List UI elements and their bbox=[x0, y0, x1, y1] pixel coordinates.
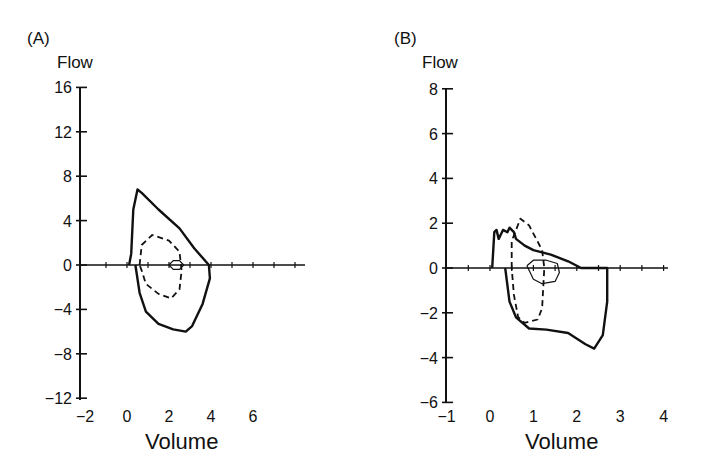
y-tick-label: 8 bbox=[429, 81, 438, 98]
y-tick-label: −4 bbox=[420, 350, 438, 367]
y-tick-label: 2 bbox=[429, 215, 438, 232]
x-tick-label: 4 bbox=[659, 408, 668, 425]
panel-a-label: (A) bbox=[27, 29, 50, 48]
x-tick-label: 6 bbox=[249, 408, 258, 425]
panel-b-x-axis-label: Volume bbox=[525, 429, 598, 454]
panel-a-series bbox=[129, 190, 210, 332]
x-tick-label: 1 bbox=[529, 408, 538, 425]
y-tick-label: −12 bbox=[45, 390, 72, 407]
x-tick-label: 2 bbox=[572, 408, 581, 425]
x-tick-label: 0 bbox=[486, 408, 495, 425]
x-tick-label: 0 bbox=[123, 408, 132, 425]
y-tick-label: 16 bbox=[54, 79, 72, 96]
y-tick-label: −6 bbox=[420, 394, 438, 411]
panel-b-chart: (B) Flow Volume 86420−2−4−6−101234 bbox=[394, 29, 668, 454]
y-tick-label: −4 bbox=[54, 301, 72, 318]
panel-a-chart: (A) Flow Volume 1612840−4−8−12−20246 bbox=[27, 29, 305, 454]
dashed-loop-curve bbox=[512, 219, 545, 323]
y-tick-label: −8 bbox=[54, 346, 72, 363]
panel-a-x-axis-label: Volume bbox=[145, 429, 218, 454]
panel-a-axes: 1612840−4−8−12−20246 bbox=[45, 79, 305, 425]
outer-loop-curve bbox=[129, 190, 210, 332]
x-tick-label: −1 bbox=[437, 408, 455, 425]
panel-b-y-axis-label: Flow bbox=[422, 53, 459, 72]
y-tick-label: 4 bbox=[429, 170, 438, 187]
y-tick-label: 12 bbox=[54, 124, 72, 141]
y-tick-label: 4 bbox=[63, 213, 72, 230]
y-tick-label: 8 bbox=[63, 168, 72, 185]
dashed-loop-curve bbox=[140, 235, 182, 298]
flow-volume-figure: (A) Flow Volume 1612840−4−8−12−20246 (B)… bbox=[0, 0, 707, 464]
y-tick-label: 6 bbox=[429, 126, 438, 143]
x-tick-label: 3 bbox=[616, 408, 625, 425]
x-tick-label: −2 bbox=[76, 408, 94, 425]
panel-b-series bbox=[492, 219, 607, 349]
y-tick-label: 0 bbox=[63, 257, 72, 274]
panel-b-label: (B) bbox=[394, 29, 417, 48]
outer-loop-curve bbox=[492, 228, 607, 349]
y-tick-label: −2 bbox=[420, 305, 438, 322]
y-tick-label: 0 bbox=[429, 260, 438, 277]
x-tick-label: 4 bbox=[207, 408, 216, 425]
panel-a-y-axis-label: Flow bbox=[57, 53, 94, 72]
x-tick-label: 2 bbox=[165, 408, 174, 425]
